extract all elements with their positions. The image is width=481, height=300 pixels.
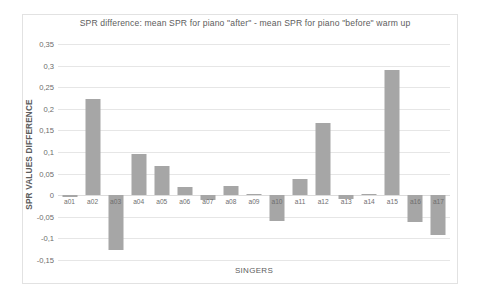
bar-group[interactable]: a10 (266, 44, 289, 260)
y-tick-label: 0,25 (14, 83, 54, 92)
bar-group[interactable]: a17 (427, 44, 450, 260)
bar[interactable] (362, 194, 377, 195)
bar-group[interactable]: a06 (173, 44, 196, 260)
x-axis-title: SINGERS (58, 266, 450, 275)
bar[interactable] (385, 70, 400, 195)
plot-area: a01a02a03a04a05a06a07a08a09a10a11a12a13a… (58, 44, 450, 260)
bar[interactable] (131, 154, 146, 195)
y-tick-label: 0,3 (14, 61, 54, 70)
x-tick-label: a07 (202, 198, 213, 205)
y-axis-tick-labels: 0,350,30,250,20,150,10,050-0,05-0,1-0,15 (10, 44, 54, 260)
bar[interactable] (246, 194, 261, 195)
bar-group[interactable]: a12 (312, 44, 335, 260)
x-tick-label: a01 (64, 198, 75, 205)
bar-group[interactable]: a05 (150, 44, 173, 260)
y-tick-label: 0 (14, 191, 54, 200)
bar-group[interactable]: a03 (104, 44, 127, 260)
bar-group[interactable]: a09 (242, 44, 265, 260)
y-tick-label: 0,05 (14, 169, 54, 178)
bar-series: a01a02a03a04a05a06a07a08a09a10a11a12a13a… (58, 44, 450, 260)
bar[interactable] (62, 195, 77, 197)
bar[interactable] (293, 179, 308, 195)
x-tick-label: a08 (225, 198, 236, 205)
chart-title: SPR difference: mean SPR for piano "afte… (40, 18, 450, 28)
x-tick-label: a13 (341, 198, 352, 205)
bar-group[interactable]: a15 (381, 44, 404, 260)
x-tick-label: a02 (87, 198, 98, 205)
x-tick-label: a11 (295, 198, 306, 205)
y-tick-label: -0,05 (14, 212, 54, 221)
gridline (58, 260, 450, 261)
bar-group[interactable]: a08 (219, 44, 242, 260)
bar[interactable] (223, 186, 238, 196)
y-tick-label: 0,15 (14, 126, 54, 135)
bar-group[interactable]: a04 (127, 44, 150, 260)
bar-group[interactable]: a07 (196, 44, 219, 260)
x-tick-label: a12 (318, 198, 329, 205)
y-tick-label: -0,15 (14, 256, 54, 265)
bar-group[interactable]: a01 (58, 44, 81, 260)
bar[interactable] (177, 187, 192, 196)
bar-group[interactable]: a02 (81, 44, 104, 260)
bar-group[interactable]: a16 (404, 44, 427, 260)
bar-group[interactable]: a11 (289, 44, 312, 260)
bar-group[interactable]: a14 (358, 44, 381, 260)
x-tick-label: a14 (364, 198, 375, 205)
x-tick-label: a10 (272, 198, 283, 205)
bar[interactable] (316, 123, 331, 196)
x-tick-label: a06 (179, 198, 190, 205)
bar[interactable] (154, 166, 169, 195)
chart-container: SPR difference: mean SPR for piano "afte… (0, 0, 481, 300)
bar-group[interactable]: a13 (335, 44, 358, 260)
x-tick-label: a16 (410, 198, 421, 205)
x-tick-label: a03 (110, 198, 121, 205)
y-tick-label: -0,1 (14, 234, 54, 243)
x-tick-label: a17 (433, 198, 444, 205)
y-tick-label: 0,1 (14, 148, 54, 157)
x-tick-label: a05 (156, 198, 167, 205)
x-tick-label: a09 (248, 198, 259, 205)
y-tick-label: 0,35 (14, 40, 54, 49)
bar[interactable] (85, 99, 100, 195)
x-tick-label: a15 (387, 198, 398, 205)
y-tick-label: 0,2 (14, 104, 54, 113)
x-tick-label: a04 (133, 198, 144, 205)
